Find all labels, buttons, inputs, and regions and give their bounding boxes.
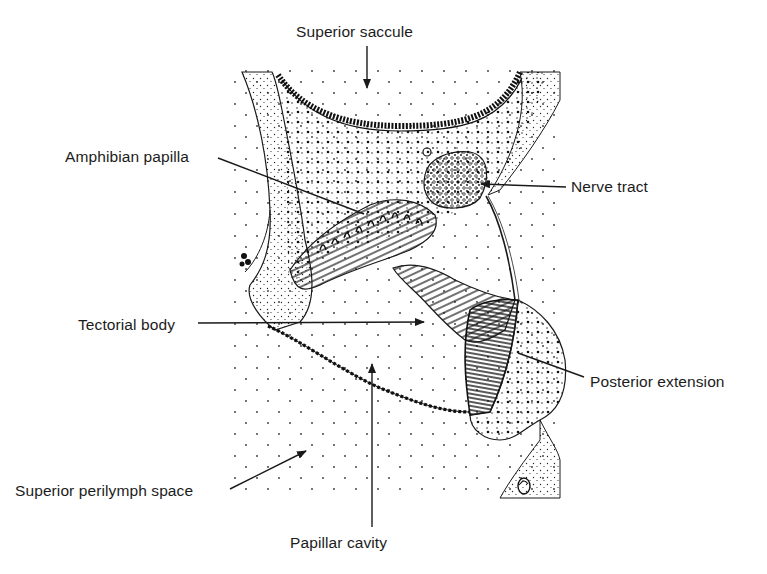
label-posterior-extension: Posterior extension: [590, 374, 725, 390]
label-nerve-tract: Nerve tract: [571, 179, 648, 195]
label-tectorial-body: Tectorial body: [78, 317, 175, 333]
label-amphibian-papilla: Amphibian papilla: [65, 149, 189, 165]
label-superior-saccule: Superior saccule: [296, 24, 413, 40]
label-papillar-cavity: Papillar cavity: [290, 535, 387, 551]
label-superior-perilymph-space: Superior perilymph space: [15, 483, 193, 499]
